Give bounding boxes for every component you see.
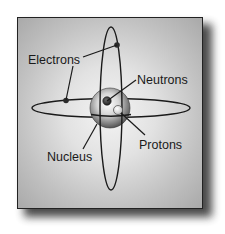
electrons-leader-left	[66, 66, 73, 100]
atom-diagram: Electrons Neutrons Protons Nucleus	[0, 0, 225, 234]
electrons-label: Electrons	[28, 53, 80, 67]
electrons-leader-top	[83, 45, 117, 57]
nucleus-sphere	[90, 88, 130, 128]
protons-label: Protons	[139, 138, 182, 152]
nucleus-label: Nucleus	[47, 150, 92, 164]
nucleus-leader	[83, 124, 97, 149]
neutrons-label: Neutrons	[137, 73, 188, 87]
